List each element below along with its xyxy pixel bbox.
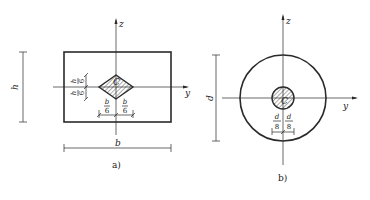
svg-text:d: d [275,113,280,121]
kern-half-width-right: b 6 [122,98,128,115]
caption-b: b) [278,173,287,183]
svg-text:6: 6 [78,78,86,83]
kern-radius-right: d 8 [285,113,293,131]
svg-text:b: b [123,98,128,106]
svg-text:6: 6 [78,90,86,95]
figure-a-rectangular-section: z y C h 6 h 6 b 6 [10,18,191,170]
width-label: b [115,138,121,148]
svg-text:d: d [287,113,292,121]
z-axis-label-b: z [285,16,291,26]
height-label: h [10,84,20,90]
kern-half-height-lower: h 6 [70,90,86,96]
y-axis-label-b: y [342,101,349,111]
diameter-label: d [205,95,215,101]
svg-text:8: 8 [287,123,291,131]
caption-a: a) [112,160,121,170]
z-axis-arrow-a [115,18,118,24]
svg-text:6: 6 [123,107,128,115]
y-axis-arrow-b [352,97,358,100]
svg-text:h: h [70,79,78,84]
kern-half-height-upper: h 6 [70,78,86,84]
kern-label-b: C [281,96,288,106]
kern-label-a: C [113,77,120,87]
svg-text:h: h [70,91,78,96]
svg-text:6: 6 [105,107,110,115]
svg-text:8: 8 [275,123,279,131]
svg-text:b: b [105,98,110,106]
kern-radius-left: d 8 [273,113,281,131]
cross-section-kern-diagram: z y C h 6 h 6 b 6 [0,0,370,200]
figure-b-circular-section: z y C d 8 d 8 d b) [205,14,358,183]
kern-half-width-left: b 6 [104,98,110,115]
z-axis-label-a: z [118,19,124,29]
y-axis-label-a: y [184,88,191,98]
z-axis-arrow-b [282,14,285,20]
